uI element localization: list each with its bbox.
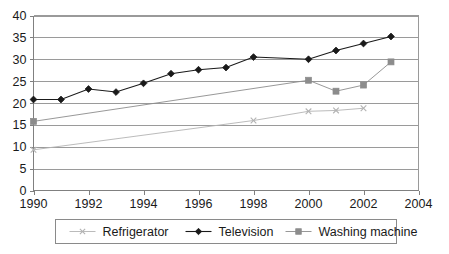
x-tick-label: 2004 bbox=[405, 197, 433, 211]
y-tick-label: 30 bbox=[13, 53, 27, 67]
x-tick-label: 1998 bbox=[240, 197, 268, 211]
data-point-diamond bbox=[360, 40, 367, 47]
data-point-diamond bbox=[195, 66, 202, 73]
y-axis-tick-labels: 0510152025303540 bbox=[13, 9, 27, 198]
data-point-diamond bbox=[140, 80, 147, 87]
data-point-square bbox=[361, 82, 367, 88]
data-point-diamond bbox=[223, 64, 230, 71]
y-tick-label: 20 bbox=[13, 97, 27, 111]
chart-canvas: 0510152025303540 19901992199419961998200… bbox=[0, 0, 449, 254]
data-point-diamond bbox=[58, 96, 65, 103]
y-tick-label: 5 bbox=[20, 162, 27, 176]
data-point-square bbox=[388, 59, 394, 65]
series-line bbox=[34, 108, 364, 150]
x-tick-label: 1996 bbox=[185, 197, 213, 211]
data-series bbox=[30, 33, 394, 153]
gridlines bbox=[34, 16, 419, 191]
y-tick-label: 10 bbox=[13, 140, 27, 154]
data-point-diamond bbox=[388, 33, 395, 40]
data-point-diamond bbox=[305, 56, 312, 63]
x-tick-label: 1994 bbox=[130, 197, 158, 211]
data-point-diamond bbox=[168, 70, 175, 77]
legend-marker-square bbox=[296, 229, 302, 235]
data-point-square bbox=[31, 118, 37, 124]
data-point-diamond bbox=[333, 47, 340, 54]
x-tick-label: 2000 bbox=[295, 197, 323, 211]
legend-label: Refrigerator bbox=[103, 225, 169, 239]
data-point-diamond bbox=[113, 89, 120, 96]
x-tick-label: 2002 bbox=[350, 197, 378, 211]
y-tick-label: 35 bbox=[13, 31, 27, 45]
y-tick-label: 15 bbox=[13, 118, 27, 132]
chart-legend: RefrigeratorTelevisionWashing machine bbox=[56, 220, 418, 244]
data-point-square bbox=[306, 77, 312, 83]
series-television bbox=[30, 33, 394, 103]
y-tick-label: 40 bbox=[13, 9, 27, 23]
data-point-diamond bbox=[30, 96, 37, 103]
series-refrigerator bbox=[31, 105, 367, 152]
y-tick-label: 25 bbox=[13, 75, 27, 89]
data-point-square bbox=[333, 88, 339, 94]
line-chart: 0510152025303540 19901992199419961998200… bbox=[0, 0, 449, 254]
data-point-diamond bbox=[85, 86, 92, 93]
x-tick-label: 1990 bbox=[20, 197, 48, 211]
x-axis-tick-labels: 19901992199419961998200020022004 bbox=[20, 197, 433, 211]
x-tick-label: 1992 bbox=[75, 197, 103, 211]
legend-label: Television bbox=[219, 225, 274, 239]
legend-label: Washing machine bbox=[319, 225, 418, 239]
